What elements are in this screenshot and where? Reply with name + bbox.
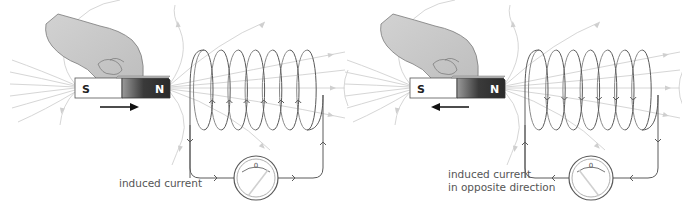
field-arrow	[662, 112, 668, 117]
wire-right	[277, 95, 323, 178]
coil-loop-front	[307, 50, 316, 130]
coil-loop-front	[238, 50, 247, 130]
field-line	[353, 92, 410, 122]
wire-left	[190, 125, 235, 178]
coil-loop-front	[256, 50, 265, 130]
field-line	[170, 70, 345, 87]
current-arrow	[613, 97, 619, 100]
field-line	[505, 5, 518, 84]
field-arrow	[328, 53, 334, 58]
caption-line-2: in opposite direction	[448, 181, 555, 194]
coil-loop-front	[204, 50, 213, 130]
induction-diagram: 0SN 0SN	[0, 0, 682, 214]
galvanometer-zero-label: 0	[589, 162, 593, 170]
field-line	[505, 89, 680, 118]
coil-loop-back	[615, 50, 626, 130]
coil-loop-back	[529, 50, 540, 130]
caption-induced-current-opposite: induced current in opposite direction	[448, 168, 555, 194]
north-pole-label: N	[155, 83, 164, 96]
coil-loop-back	[194, 50, 205, 130]
field-arrow	[178, 146, 183, 152]
coil-loop-back	[262, 50, 273, 130]
bar-magnet: SN	[75, 76, 170, 98]
coil-loop-front	[221, 50, 230, 130]
coil-loop-back	[297, 50, 308, 130]
magnet-top-face	[116, 76, 170, 78]
motion-arrow-right	[100, 103, 139, 111]
south-pole-label: S	[82, 83, 90, 96]
field-line	[12, 60, 75, 85]
field-line	[170, 89, 345, 118]
wire-right	[612, 95, 658, 178]
coil-loop-back	[280, 50, 291, 130]
current-arrow	[544, 97, 550, 100]
field-arrow	[327, 112, 333, 117]
bar-magnet: SN	[410, 76, 505, 98]
coil-loop-back	[245, 50, 256, 130]
south-pole-label: S	[417, 83, 425, 96]
field-line	[347, 60, 410, 85]
motion-arrow-left	[431, 103, 469, 111]
coil-loop-front	[573, 50, 582, 130]
field-line	[505, 52, 680, 86]
field-arrow	[330, 86, 336, 91]
coil-loop-back	[597, 50, 608, 130]
field-arrow	[663, 53, 669, 58]
field-arrow	[665, 86, 671, 91]
magnet-top-face	[451, 76, 505, 78]
caption-induced-current: induced current	[119, 177, 202, 190]
galvanometer: 0	[569, 156, 613, 200]
field-line	[505, 90, 605, 150]
galvanometer-zero-label: 0	[254, 162, 258, 170]
motion-arrow-head	[431, 103, 440, 111]
north-pole-label: N	[490, 83, 499, 96]
galvanometer: 0	[234, 156, 278, 200]
caption-line-1: induced current	[119, 177, 202, 190]
field-arrow	[513, 146, 518, 152]
field-line	[10, 84, 75, 87]
coil-loop-back	[546, 50, 557, 130]
caption-line-1: induced current	[448, 168, 555, 181]
motion-arrow-head	[130, 103, 139, 111]
field-line	[170, 92, 184, 165]
coil-lead-left	[525, 50, 539, 178]
field-line	[18, 92, 75, 122]
coil-loop-front	[642, 50, 651, 130]
coil-loop-back	[211, 50, 222, 130]
panel-magnet-in: 0SN	[10, 0, 348, 200]
coil-loop-front	[273, 50, 282, 130]
field-line	[505, 70, 680, 87]
coil-loop-front	[556, 50, 565, 130]
current-arrow	[596, 97, 602, 100]
field-line	[10, 88, 75, 96]
field-line	[170, 90, 270, 150]
coil-loop-front	[591, 50, 600, 130]
coil-loop-front	[608, 50, 617, 130]
field-line	[505, 92, 519, 165]
current-arrow	[630, 97, 636, 100]
field-line	[170, 52, 345, 86]
coil-loop-back	[632, 50, 643, 130]
coil-loop-back	[580, 50, 591, 130]
coil-lead-left	[190, 50, 204, 178]
coil-loop-front	[539, 50, 548, 130]
field-line	[345, 84, 410, 87]
field-line	[345, 88, 410, 96]
field-line	[170, 5, 183, 84]
